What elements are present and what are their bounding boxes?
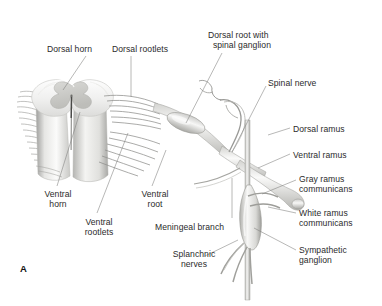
label-ventral-root: Ventral root [134,189,176,209]
ventral-rootlet-bundle-right [99,132,160,176]
label-ventral-horn: Ventral horn [33,189,83,209]
leader-dorsal-root-ganglion [186,53,222,123]
label-meningeal-branch: Meningeal branch [155,222,224,232]
figure-panel: Dorsal horn Dorsal rootlets Dorsal root … [0,0,382,306]
label-white-ramus-communicans: White ramus communicans [299,208,353,228]
leader-ventral-root [152,150,166,186]
panel-id-label: A [20,263,27,274]
label-dorsal-rootlets: Dorsal rootlets [112,44,168,54]
dorsal-root-and-ganglion [153,103,230,159]
label-ventral-ramus: Ventral ramus [293,150,347,160]
label-ventral-rootlets: Ventral rootlets [72,217,126,237]
label-dorsal-ramus: Dorsal ramus [293,124,345,134]
leader-sympathetic-ganglion [254,228,296,250]
dorsal-rootlet-bundle-right [104,95,161,129]
label-splanchnic-nerves: Splanchnic nerves [164,249,224,269]
leader-ventral-ramus [258,154,290,168]
label-spinal-nerve: Spinal nerve [268,78,316,88]
central-canal [70,95,72,98]
label-gray-ramus-communicans: Gray ramus communicans [299,174,353,194]
label-sympathetic-ganglion: Sympathetic ganglion [299,245,347,265]
dorsal-ramus-branch [199,80,245,152]
label-dorsal-root-spinal-ganglion: Dorsal root with spinal ganglion [208,30,271,50]
splanchnic-shade [224,243,244,270]
label-dorsal-horn: Dorsal horn [47,44,92,54]
spinal-cord-segment [17,80,161,182]
meningeal-branch-line [194,168,241,188]
leader-dorsal-ramus [268,128,290,135]
